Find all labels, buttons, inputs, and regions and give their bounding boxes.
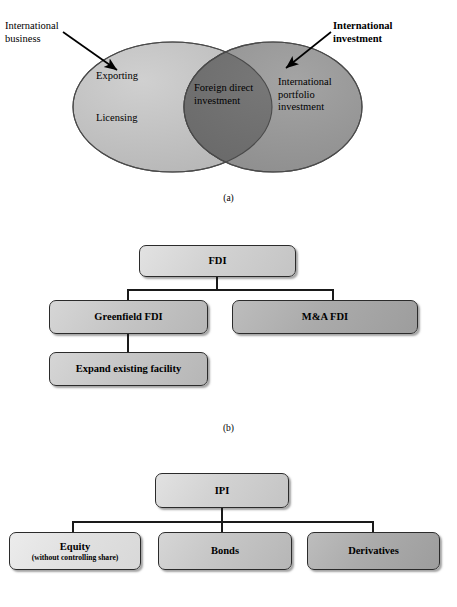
venn-label-international-investment: International investment: [333, 20, 393, 45]
node-derivatives[interactable]: Derivatives: [307, 532, 440, 570]
venn-label-licensing: Licensing: [96, 112, 137, 125]
node-derivatives-label: Derivatives: [348, 545, 399, 557]
connector-fdi-bus: [127, 289, 334, 291]
node-fdi-label: FDI: [208, 255, 226, 267]
venn-label-foreign-direct-investment: Foreign direct investment: [194, 82, 253, 107]
node-fdi[interactable]: FDI: [139, 245, 296, 277]
node-ma-fdi[interactable]: M&A FDI: [232, 300, 418, 334]
left-callout-arrow: [63, 32, 117, 70]
node-greenfield-fdi[interactable]: Greenfield FDI: [49, 300, 208, 334]
node-ipi-label: IPI: [215, 485, 230, 497]
node-ma-fdi-label: M&A FDI: [302, 311, 348, 323]
node-ipi[interactable]: IPI: [155, 473, 289, 508]
node-expand-existing-facility-label: Expand existing facility: [76, 363, 182, 375]
caption-a: (a): [0, 193, 457, 203]
node-equity-sublabel: (without controlling share): [32, 553, 119, 562]
venn-label-international-portfolio-investment: International portfolio investment: [278, 76, 332, 114]
figure-canvas: International business International inv…: [0, 0, 457, 607]
node-equity-label: Equity: [60, 541, 90, 553]
caption-b: (b): [0, 423, 457, 433]
node-equity[interactable]: Equity (without controlling share): [9, 532, 141, 570]
venn-label-exporting: Exporting: [96, 70, 138, 83]
connector-expand-stem: [127, 334, 129, 353]
node-greenfield-fdi-label: Greenfield FDI: [94, 311, 162, 323]
node-bonds[interactable]: Bonds: [158, 532, 292, 570]
node-bonds-label: Bonds: [211, 545, 239, 557]
venn-label-international-business: International business: [5, 20, 59, 45]
connector-ipi-bus: [72, 521, 374, 523]
node-expand-existing-facility[interactable]: Expand existing facility: [49, 352, 208, 386]
